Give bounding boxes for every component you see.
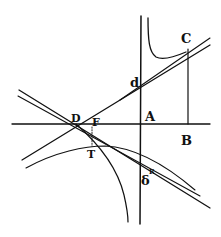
label-T: T	[87, 148, 96, 161]
label-D: D	[71, 112, 81, 125]
label-A: A	[144, 109, 156, 124]
label-B: B	[181, 133, 192, 148]
rising-line-parallel	[120, 38, 210, 100]
label-F: F	[92, 116, 100, 129]
lower-left-branch	[76, 124, 128, 222]
label-R: R	[149, 167, 155, 176]
geometry-diagram: C d A B D F T δ R	[0, 0, 221, 237]
vertical-axis	[140, 16, 141, 224]
label-d: d	[130, 75, 139, 90]
label-C: C	[181, 31, 191, 46]
